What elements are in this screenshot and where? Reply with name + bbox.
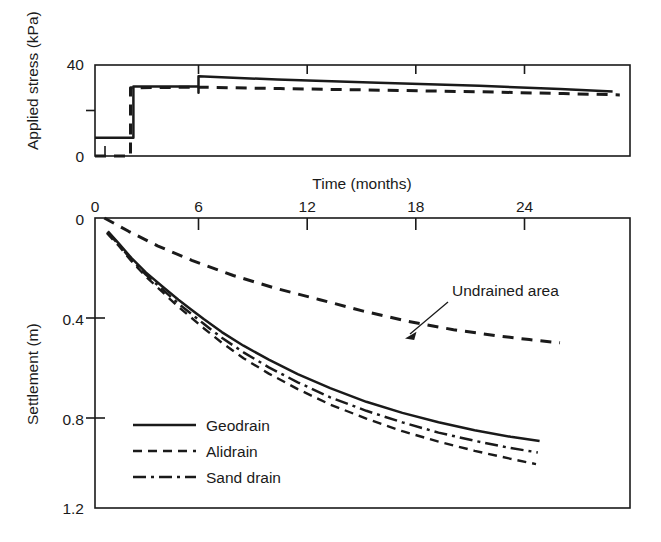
bottom-chart-series-sand-drain: [107, 232, 538, 452]
bottom-chart-xtick-12: 12: [299, 198, 316, 215]
undrained-area-annotation-arrow: [410, 302, 448, 334]
legend: Geodrain Alidrain Sand drain: [133, 417, 281, 486]
bottom-chart-group: 0 6 12 18 24 Settlement (m) 0 0.4 0.8 1.…: [24, 198, 630, 517]
bottom-chart-series-geodrain: [108, 231, 540, 441]
bottom-chart-ytick-04: 0.4: [62, 311, 84, 328]
bottom-chart-ytick-12: 1.2: [62, 500, 84, 517]
legend-label-sand-drain: Sand drain: [206, 469, 281, 486]
legend-label-alidrain: Alidrain: [206, 443, 258, 460]
bottom-chart-ytick-0: 0: [75, 211, 84, 228]
settlement-stress-figure: Applied stress (kPa) 40 0 Time (months): [0, 0, 661, 542]
bottom-chart-xtick-0: 0: [91, 198, 100, 215]
bottom-chart-ytick-08: 0.8: [62, 411, 84, 428]
figure-container: Applied stress (kPa) 40 0 Time (months): [0, 0, 661, 542]
top-chart-series-undrained: [95, 87, 620, 156]
top-chart-y-axis-title: Applied stress (kPa): [24, 11, 41, 150]
top-chart-series-drained: [95, 76, 613, 138]
top-chart-group: Applied stress (kPa) 40 0 Time (months): [24, 11, 630, 192]
top-chart-x-axis-title: Time (months): [312, 175, 411, 192]
top-chart-ytick-0: 0: [75, 148, 84, 165]
bottom-chart-xtick-18: 18: [407, 198, 424, 215]
bottom-chart-xtick-6: 6: [194, 198, 203, 215]
bottom-chart-y-axis-title: Settlement (m): [24, 323, 41, 425]
legend-label-geodrain: Geodrain: [206, 417, 270, 434]
bottom-chart-series-undrained-area: [104, 218, 560, 343]
undrained-area-annotation-label: Undrained area: [452, 282, 559, 299]
bottom-chart-plot-frame: [95, 218, 630, 508]
top-chart-ytick-40: 40: [67, 56, 85, 73]
top-chart-plot-frame: [95, 65, 630, 156]
bottom-chart-xtick-24: 24: [516, 198, 534, 215]
